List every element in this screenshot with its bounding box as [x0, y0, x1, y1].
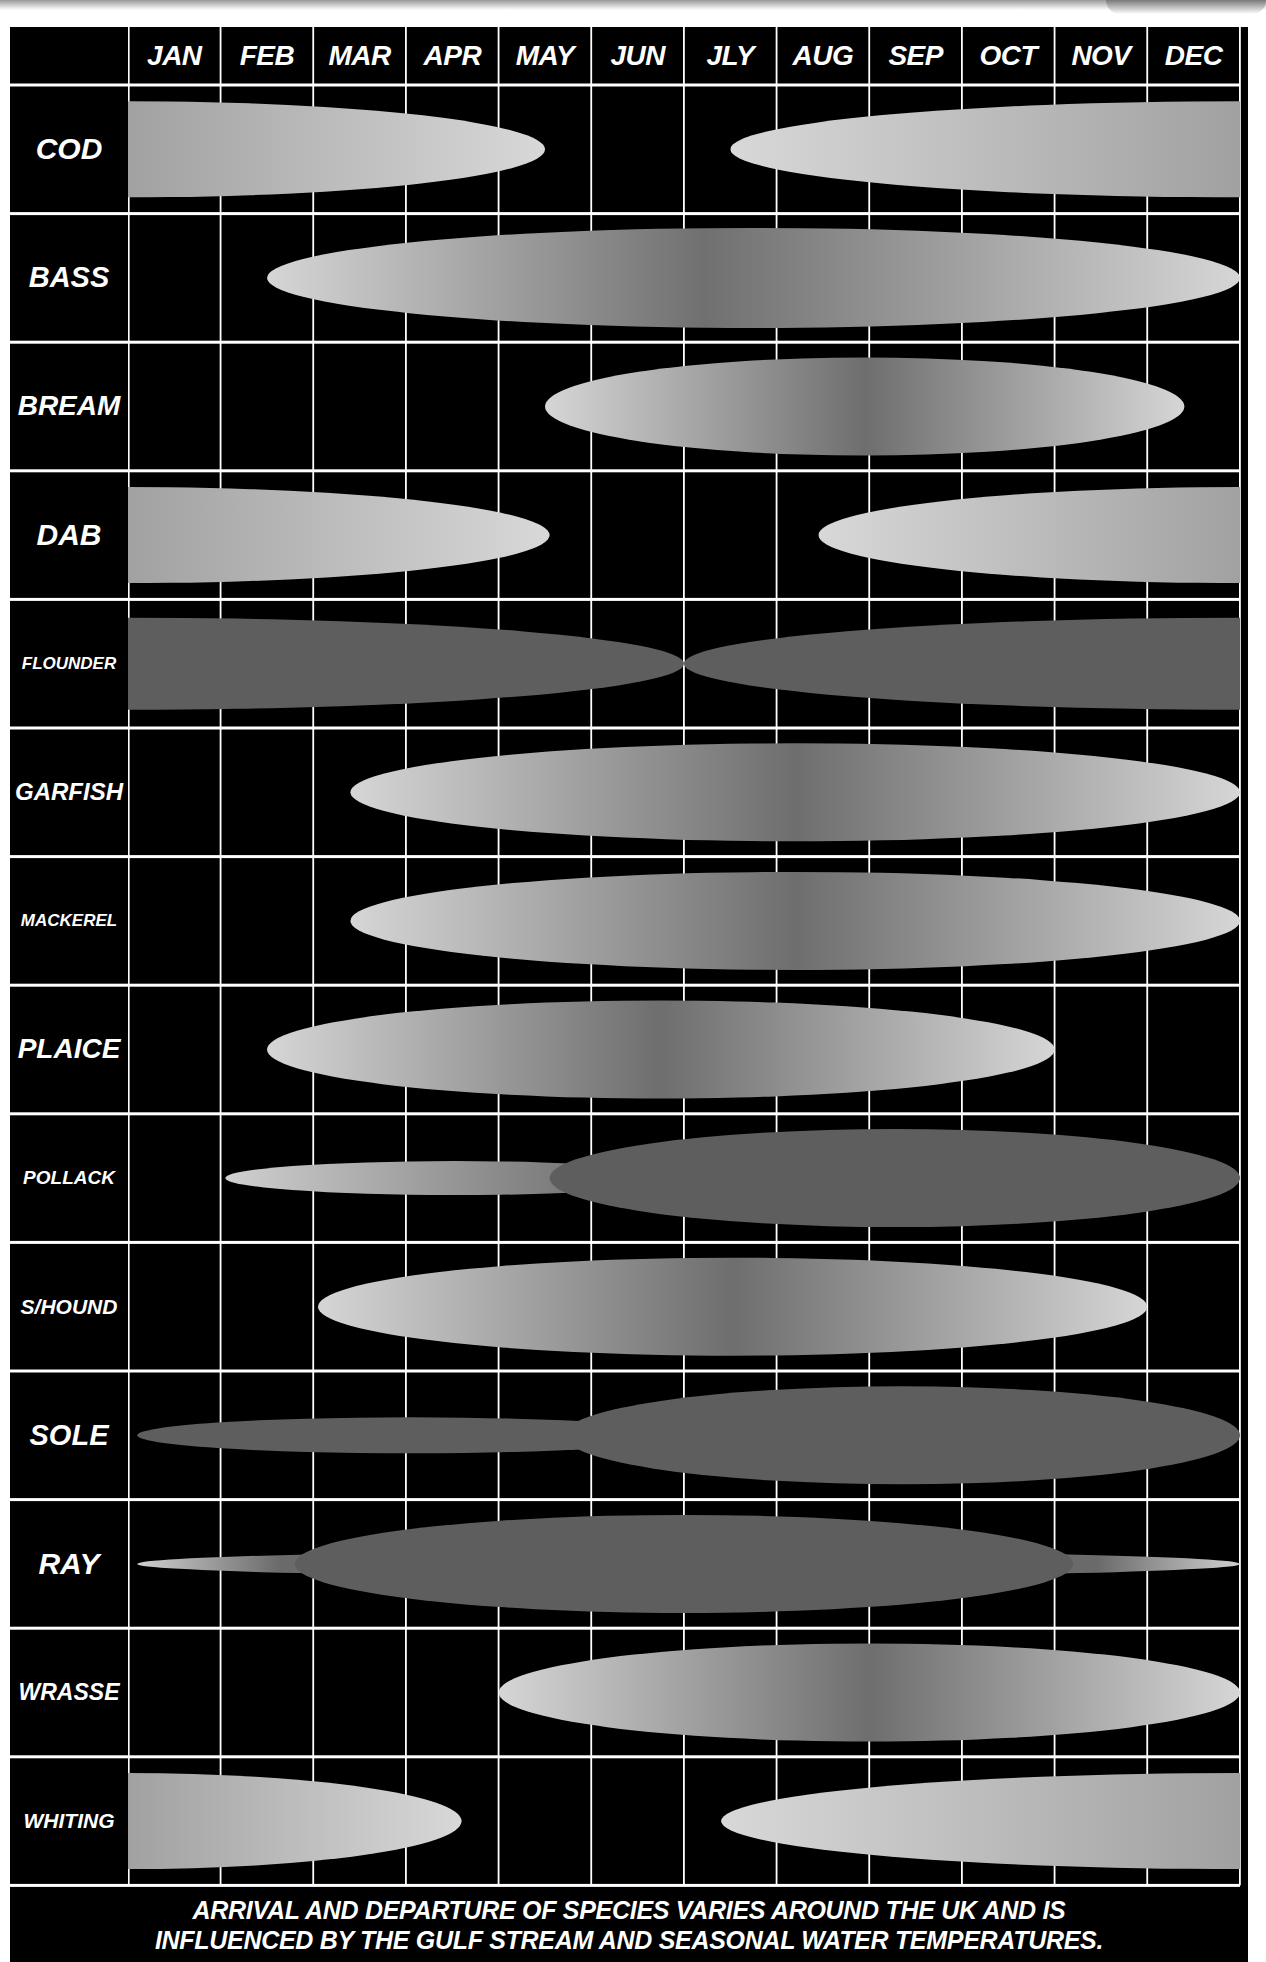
- species-label-pollack: POLLACK: [10, 1114, 128, 1243]
- month-header-jan: JAN: [128, 27, 221, 85]
- fish-season-chart: JANFEBMARAPRMAYJUNJLYAUGSEPOCTNOVDEC COD…: [10, 27, 1248, 1962]
- month-header-may: MAY: [499, 27, 592, 85]
- species-bar-pollack: [225, 1129, 1240, 1227]
- species-label-plaice: PLAICE: [10, 985, 128, 1114]
- species-bar-plaice: [267, 1001, 1055, 1099]
- footer-line-1: ARRIVAL AND DEPARTURE OF SPECIES VARIES …: [193, 1895, 1066, 1925]
- species-label-bass: BASS: [10, 214, 128, 343]
- species-label-flounder: FLOUNDER: [10, 599, 128, 728]
- species-label-whiting: WHITING: [10, 1757, 128, 1886]
- species-label-garfish: GARFISH: [10, 728, 128, 857]
- species-label-cod: COD: [10, 85, 128, 214]
- species-bar-whiting: [10, 1773, 1248, 1869]
- month-header-sep: SEP: [869, 27, 962, 85]
- species-bar-mackerel: [350, 872, 1240, 970]
- species-label-ray: RAY: [10, 1500, 128, 1629]
- month-header-jun: JUN: [591, 27, 684, 85]
- species-label-dab: DAB: [10, 471, 128, 600]
- species-bar-bass: [267, 228, 1240, 328]
- month-header-jly: JLY: [684, 27, 777, 85]
- species-bar-bream: [545, 358, 1184, 456]
- species-bar-dab: [10, 487, 1248, 583]
- page-top-shadow: [0, 0, 1266, 10]
- chart-graphics: [10, 27, 1248, 1962]
- footer-note: ARRIVAL AND DEPARTURE OF SPECIES VARIES …: [10, 1887, 1248, 1962]
- species-label-shound: S/HOUND: [10, 1242, 128, 1371]
- month-header-nov: NOV: [1055, 27, 1148, 85]
- species-bar-sole: [137, 1386, 1240, 1484]
- month-header-oct: OCT: [962, 27, 1055, 85]
- species-label-mackerel: MACKEREL: [10, 857, 128, 986]
- month-header-dec: DEC: [1147, 27, 1240, 85]
- species-bar-wrasse: [499, 1644, 1240, 1742]
- month-header-mar: MAR: [313, 27, 406, 85]
- species-bar-cod: [10, 101, 1248, 197]
- month-header-aug: AUG: [777, 27, 870, 85]
- species-bar-garfish: [350, 743, 1240, 841]
- month-header-feb: FEB: [221, 27, 314, 85]
- species-bar-ray: [137, 1515, 1240, 1613]
- species-label-sole: SOLE: [10, 1371, 128, 1500]
- species-bar-shound: [318, 1258, 1147, 1356]
- page-corner-shadow: [1106, 0, 1266, 14]
- species-bar-flounder: [10, 618, 1248, 710]
- species-label-wrasse: WRASSE: [10, 1628, 128, 1757]
- month-header-apr: APR: [406, 27, 499, 85]
- species-label-bream: BREAM: [10, 342, 128, 471]
- footer-line-2: INFLUENCED BY THE GULF STREAM AND SEASON…: [155, 1925, 1103, 1955]
